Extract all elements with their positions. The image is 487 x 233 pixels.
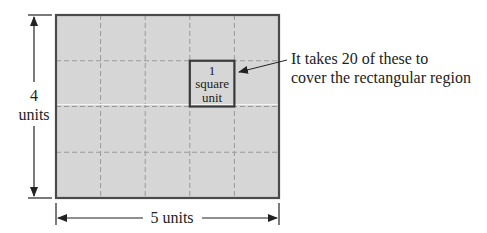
unit-square-label-unit: unit (202, 90, 223, 105)
height-unit: units (18, 106, 49, 123)
annotation-line-2: cover the rectangular region (291, 69, 471, 87)
annotation-line-1: It takes 20 of these to (291, 50, 428, 67)
width-label: 5 units (150, 209, 193, 226)
height-value: 4 (30, 87, 38, 104)
area-diagram: 1 square unit 4 units 5 units It takes 2… (0, 0, 487, 233)
